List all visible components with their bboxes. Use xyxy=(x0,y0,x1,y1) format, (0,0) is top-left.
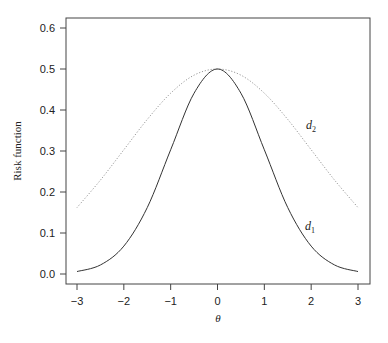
x-tick-label: 2 xyxy=(308,295,314,307)
y-tick-label: 0.4 xyxy=(40,104,55,116)
y-tick-label: 0.0 xyxy=(40,268,55,280)
curve-d1 xyxy=(77,69,358,272)
x-tick-label: 1 xyxy=(261,295,267,307)
y-tick-label: 0.3 xyxy=(40,145,55,157)
x-tick-label: 0 xyxy=(214,295,220,307)
x-tick-label: −1 xyxy=(164,295,177,307)
y-axis: 0.00.10.20.30.40.50.6 xyxy=(40,22,66,280)
curve-label-d2: d2 xyxy=(306,118,316,134)
risk-function-chart: 0.00.10.20.30.40.50.6 −3−2−10123 d2 d1 θ… xyxy=(0,0,388,343)
y-axis-title: Risk function xyxy=(11,121,23,181)
x-tick-label: −3 xyxy=(71,295,84,307)
curve-d2 xyxy=(77,69,358,208)
x-tick-label: 3 xyxy=(355,295,361,307)
plot-frame xyxy=(66,18,370,284)
y-tick-label: 0.5 xyxy=(40,63,55,75)
x-axis: −3−2−10123 xyxy=(71,284,361,307)
y-tick-label: 0.6 xyxy=(40,22,55,34)
x-axis-title: θ xyxy=(215,312,221,324)
y-tick-label: 0.1 xyxy=(40,227,55,239)
curve-label-d1: d1 xyxy=(305,219,315,235)
y-tick-label: 0.2 xyxy=(40,186,55,198)
x-tick-label: −2 xyxy=(118,295,131,307)
